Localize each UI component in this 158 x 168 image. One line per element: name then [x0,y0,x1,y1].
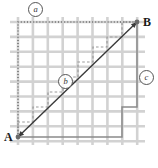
figure-canvas [0,0,158,168]
grid-path-figure: A B a b c [0,0,158,168]
path-label-b: b [58,74,73,89]
point-label-A: A [4,131,13,143]
path-label-a: a [28,2,43,17]
path-label-c: c [139,70,154,85]
point-label-B: B [143,16,151,28]
